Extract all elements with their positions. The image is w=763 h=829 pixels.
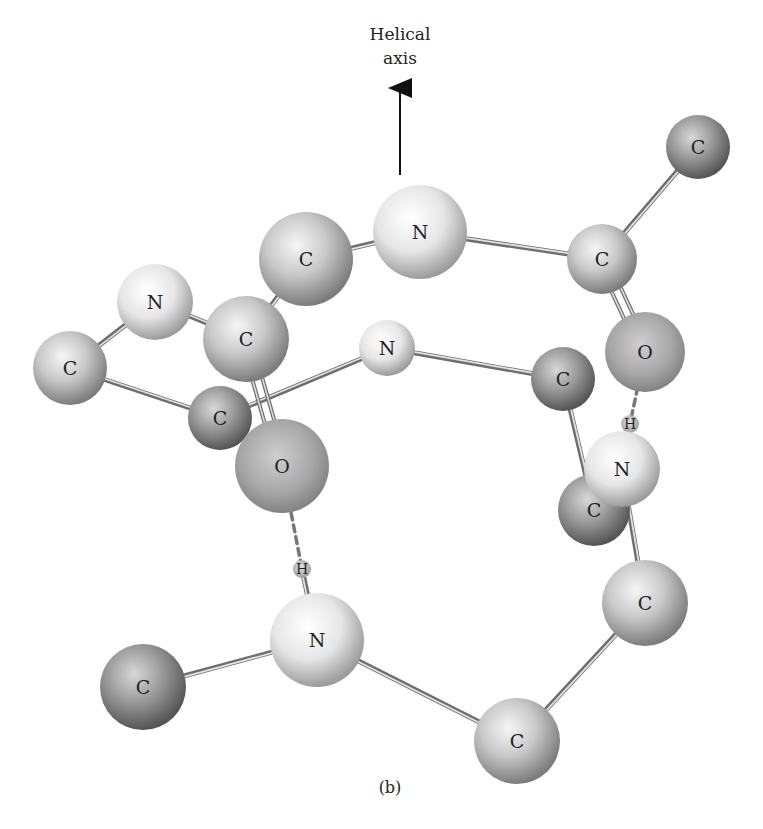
figure-caption: (b) [360, 778, 420, 797]
atom-c: C [203, 296, 289, 382]
atom-c: C [531, 347, 595, 411]
atom-h: H [621, 415, 639, 433]
atoms-layer: CNCCNCNOCCCHOCNHCNCC [33, 115, 730, 784]
atom-h: H [293, 560, 311, 578]
atom-label: O [637, 341, 653, 363]
molecule-svg: CNCCNCNOCCCHOCNHCNCC [0, 0, 763, 829]
atom-n: N [359, 320, 415, 376]
atom-label: N [309, 629, 326, 651]
atom-label: H [624, 416, 636, 432]
atom-c: C [33, 331, 107, 405]
atom-o: O [235, 419, 329, 513]
atom-c: C [474, 698, 560, 784]
atom-label: N [614, 458, 631, 480]
atom-label: C [239, 328, 254, 350]
atom-label: N [412, 221, 429, 243]
atom-c: C [100, 644, 186, 730]
atom-n: N [117, 264, 193, 340]
atom-n: N [373, 185, 467, 279]
atom-label: N [147, 291, 164, 313]
alpha-helix-diagram: Helical axis [0, 0, 763, 829]
atom-label: O [274, 455, 290, 477]
atom-n: N [270, 593, 364, 687]
atom-c: C [188, 386, 252, 450]
atom-c: C [567, 224, 637, 294]
atom-c: C [259, 212, 353, 306]
atom-n: N [584, 431, 660, 507]
atom-label: C [136, 676, 151, 698]
atom-label: C [691, 136, 706, 158]
atom-label: C [587, 499, 602, 521]
atom-label: C [63, 357, 78, 379]
atom-label: C [595, 248, 610, 270]
atom-label: C [213, 407, 228, 429]
atom-label: H [296, 561, 308, 577]
atom-label: C [638, 592, 653, 614]
atom-label: C [510, 730, 525, 752]
atom-o: O [605, 312, 685, 392]
atom-label: C [299, 248, 314, 270]
atom-label: C [556, 368, 571, 390]
atom-label: N [379, 337, 396, 359]
atom-c: C [602, 560, 688, 646]
atom-c: C [666, 115, 730, 179]
